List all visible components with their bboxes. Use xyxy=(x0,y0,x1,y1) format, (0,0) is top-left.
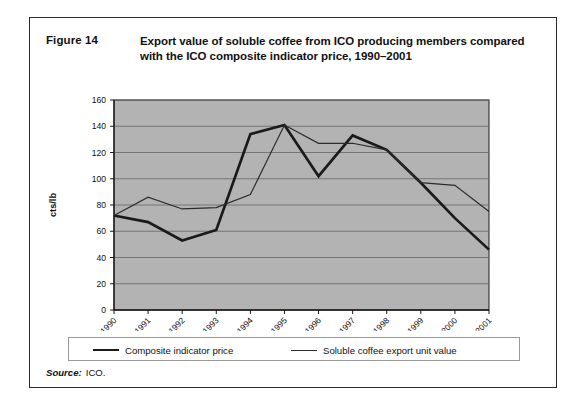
xtick-label-1995: 1995 xyxy=(269,315,289,331)
legend-label-soluble: Soluble coffee export unit value xyxy=(323,345,457,356)
ytick-label-100: 100 xyxy=(92,174,107,184)
xtick-label-1993: 1993 xyxy=(200,315,220,331)
xtick-label-1992: 1992 xyxy=(166,315,186,331)
xtick-label-1990: 1990 xyxy=(98,315,118,331)
xtick-label-1991: 1991 xyxy=(132,315,152,331)
figure-number: Figure 14 xyxy=(46,34,138,46)
xtick-label-2000: 2000 xyxy=(439,315,459,331)
source-label: Source: xyxy=(46,367,82,378)
ytick-label-80: 80 xyxy=(96,200,106,210)
xtick-label-1996: 1996 xyxy=(303,315,323,331)
ytick-label-120: 120 xyxy=(92,148,107,158)
xtick-label-1997: 1997 xyxy=(337,315,357,331)
legend-label-composite: Composite indicator price xyxy=(125,345,233,356)
legend-item-soluble-coffee-export-unit-value: Soluble coffee export unit value xyxy=(291,342,457,358)
xtick-label-1999: 1999 xyxy=(405,315,425,331)
legend-line-swatch-soluble xyxy=(291,350,317,351)
xtick-label-1998: 1998 xyxy=(371,315,391,331)
legend-item-composite-indicator-price: Composite indicator price xyxy=(93,342,233,358)
line-chart: 020406080100120140160cts/lb1990199119921… xyxy=(30,76,558,331)
ytick-label-160: 160 xyxy=(92,95,107,105)
figure-card: Figure 14 Export value of soluble coffee… xyxy=(29,17,557,388)
ytick-label-140: 140 xyxy=(92,121,107,131)
source-value: ICO. xyxy=(86,367,106,378)
xtick-label-2001: 2001 xyxy=(473,315,493,331)
ytick-label-0: 0 xyxy=(101,305,106,315)
chart-plot: 020406080100120140160cts/lb1990199119921… xyxy=(30,76,558,331)
chart-legend: Composite indicator price Soluble coffee… xyxy=(68,337,520,361)
xtick-label-1994: 1994 xyxy=(235,315,255,331)
source-note: Source:ICO. xyxy=(46,367,105,378)
ytick-label-40: 40 xyxy=(96,253,106,263)
y-axis-title: cts/lb xyxy=(48,193,58,217)
figure-title: Export value of soluble coffee from ICO … xyxy=(140,34,544,63)
legend-line-swatch-composite xyxy=(93,349,119,351)
ytick-label-60: 60 xyxy=(96,226,106,236)
ytick-label-20: 20 xyxy=(96,279,106,289)
